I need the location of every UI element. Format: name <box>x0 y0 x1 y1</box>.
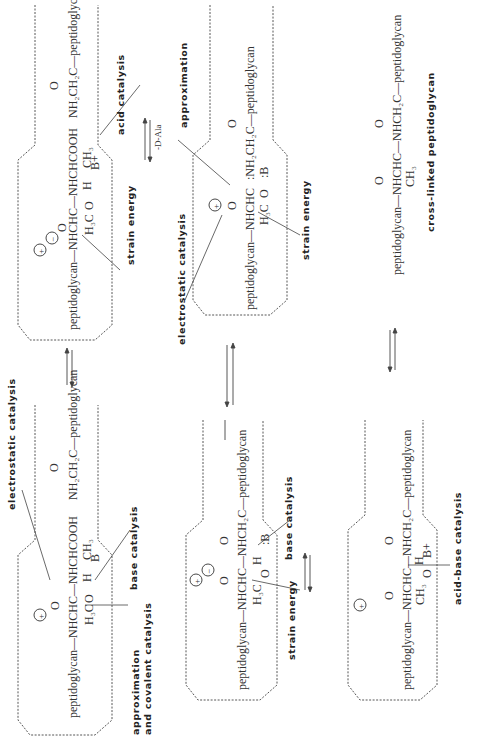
product-chain: peptidoglycan—NHCHC—NHCH₂C—peptidoglycan <box>390 15 405 275</box>
plus-sign: + <box>36 614 46 619</box>
label-electrostatic-catalysis: electrostatic catalysis <box>176 213 187 345</box>
label-covalent-catalysis: and covalent catalysis <box>142 602 153 735</box>
panel3-amine-carbonyl-o: O <box>225 119 240 128</box>
panel2-amine-carbonyl-o: O <box>47 81 62 90</box>
label-base-catalysis: base catalysis <box>283 476 294 560</box>
panel1-amine: NH₂CH₂C—peptidoglycan <box>66 370 81 500</box>
label-acid-base-catalysis: acid-base catalysis <box>452 492 463 605</box>
panel1-carbonyl-o: O <box>48 601 63 610</box>
panel4-o: O <box>258 569 273 578</box>
minus-sign: − <box>204 569 214 574</box>
label-strain-energy: strain energy <box>125 185 136 265</box>
panel2-o: O <box>82 201 97 210</box>
product-ch3: CH₃ <box>403 166 418 187</box>
label-strain-energy: strain energy <box>300 180 311 260</box>
product-carbonyl-o2: O <box>372 119 387 128</box>
label-acid-catalysis: acid catalysis <box>115 54 126 135</box>
panel5-o: O <box>420 569 435 578</box>
panel2-h3c: H₃C <box>82 214 97 235</box>
panel4-amide-o: O <box>217 536 232 545</box>
panel1-base: B <box>88 554 103 562</box>
panel1-h: H <box>80 573 95 582</box>
panel4-main-chain: peptidoglycan—NHCHC—NHCH₂C—peptidoglycan <box>235 430 250 690</box>
plus-sign: + <box>36 249 46 254</box>
panel3-h3c: H₃C <box>257 204 272 225</box>
plus-sign: + <box>356 604 366 609</box>
plus-sign: + <box>192 579 202 584</box>
panel3-amine: :NH₂CH₂C—peptidoglycan <box>243 46 258 180</box>
label-electrostatic-catalysis: electrostatic catalysis <box>6 378 17 510</box>
panel3-carbonyl-o: O <box>225 201 240 210</box>
panel4-base: :B <box>258 534 273 545</box>
plus-sign: + <box>211 204 221 209</box>
panel1-o: O <box>82 594 97 603</box>
panel5-carbonyl-o1: O <box>382 591 397 600</box>
minus-sign: − <box>48 237 58 242</box>
enzyme-pocket-outline <box>18 405 112 735</box>
panel1-amine-carbonyl-o: O <box>47 463 62 472</box>
label-strain-energy: strain energy <box>286 580 297 660</box>
enzyme-pocket-outline <box>193 5 287 315</box>
panel5-carbonyl-o2: O <box>382 536 397 545</box>
panel3-main-chain: peptidoglycan—NHCHC <box>243 188 258 310</box>
panel1-h3c: H₃C <box>82 604 97 625</box>
label-base-catalysis: base catalysis <box>128 506 139 590</box>
panel2-acid: B+ <box>88 155 103 170</box>
label-approximation: approximation <box>130 649 141 735</box>
panel1-main-chain: peptidoglycan—NHCHC—NHCHCOOH <box>66 516 81 718</box>
panel5-acid: B+ <box>420 543 435 558</box>
panel5-ch3: CH₃ <box>413 584 428 605</box>
label-approximation: approximation <box>178 42 189 128</box>
panel4-carbonyl-o: O <box>217 576 232 585</box>
label-cross-linked-peptidoglycan: cross-linked peptidoglycan <box>425 72 436 232</box>
step-label-d-ala: -D-Ala <box>153 125 163 151</box>
panel2-carbonyl-o: O <box>55 223 70 232</box>
panel3-base: :B <box>257 167 272 178</box>
panel2-amine: NH₂CH₂C—peptidoglycan <box>66 0 81 118</box>
panel2-h: H <box>80 181 95 190</box>
panel3-o: O <box>257 189 272 198</box>
product-carbonyl-o1: O <box>372 176 387 185</box>
panel4-h3c: H₃C <box>250 584 265 605</box>
panel4-h: H <box>250 556 265 565</box>
enzyme-pocket-outline <box>18 5 112 340</box>
